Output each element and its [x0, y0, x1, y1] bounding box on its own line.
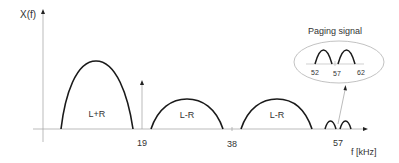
y-axis-label: X(f) — [20, 9, 36, 20]
x-axis-arrow-icon — [363, 127, 368, 131]
inset-title: Paging signal — [308, 26, 362, 36]
band-mono: L+R — [61, 61, 133, 129]
x-axis: f [kHz] — [33, 127, 377, 157]
band-stereo-lower-label: L-R — [180, 110, 195, 120]
y-axis-arrow-icon — [41, 9, 45, 14]
paging-humps: 57 — [325, 121, 351, 148]
inset-tick-52: 52 — [311, 69, 319, 76]
tick-19: 19 — [137, 138, 147, 148]
pilot-tone: 19 — [137, 80, 147, 148]
inset-connector-arrow-icon — [344, 85, 348, 91]
y-axis: X(f) — [20, 9, 45, 142]
inset-connector — [338, 90, 345, 124]
band-mono-label: L+R — [89, 109, 106, 119]
band-stereo-lower: L-R — [151, 99, 223, 129]
band-stereo-upper-label: L-R — [270, 110, 285, 120]
inset-tick-57: 57 — [333, 70, 341, 77]
x-axis-label: f [kHz] — [351, 147, 377, 157]
tick-38: 38 — [227, 139, 237, 149]
pilot-arrow-icon — [140, 80, 144, 85]
inset-tick-62: 62 — [357, 69, 365, 76]
fm-stereo-spectrum-diagram: X(f) f [kHz] L+R 19 L-R 38 L-R 57 Pagi — [0, 0, 399, 163]
paging-signal-inset: Paging signal 52 57 62 — [294, 26, 384, 83]
tick-57: 57 — [333, 138, 343, 148]
band-stereo-upper: L-R — [241, 99, 312, 129]
